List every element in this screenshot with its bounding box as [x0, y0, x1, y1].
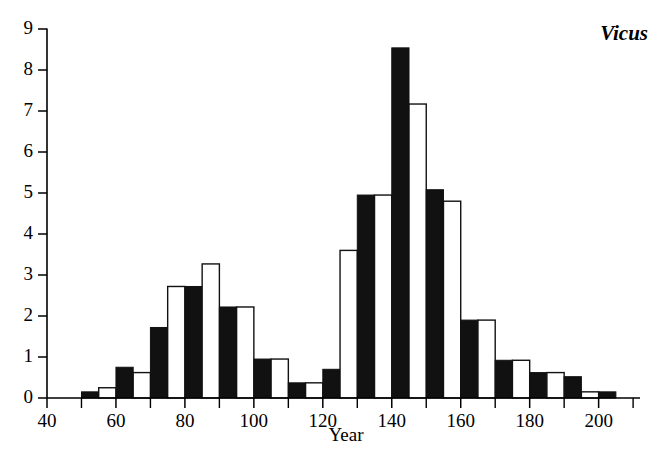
y-tick-label: 9 [24, 17, 34, 38]
histogram-bar [357, 195, 374, 398]
histogram-bar [392, 48, 409, 398]
bars-layer [81, 48, 615, 398]
x-tick-label: 80 [175, 410, 194, 431]
histogram-bar [271, 359, 288, 398]
y-tick-label: 0 [24, 386, 34, 407]
histogram-bar [495, 360, 512, 398]
y-tick-label: 6 [24, 140, 34, 161]
y-tick-label: 4 [24, 222, 34, 243]
histogram-bar [443, 201, 460, 398]
histogram-bar [599, 392, 616, 398]
y-tick-label: 2 [24, 304, 34, 325]
y-tick-label: 5 [24, 181, 34, 202]
histogram-bar [581, 392, 598, 398]
histogram-bar [116, 367, 133, 398]
histogram-bar [512, 360, 529, 398]
histogram-bar [461, 320, 478, 398]
histogram-bar [375, 195, 392, 398]
histogram-bar [409, 104, 426, 398]
x-tick-label: 200 [584, 410, 613, 431]
histogram-bar [237, 307, 254, 398]
histogram-bar [426, 190, 443, 398]
histogram-bar [185, 286, 202, 398]
histogram-bar [168, 286, 185, 398]
histogram-bar [81, 392, 98, 398]
x-tick-label: 60 [106, 410, 125, 431]
histogram-bar [340, 250, 357, 398]
x-tick-label: 180 [515, 410, 544, 431]
x-axis-title: Year [328, 424, 364, 445]
histogram-bar [478, 320, 495, 398]
histogram-bar [202, 264, 219, 398]
histogram-bar [306, 383, 323, 398]
x-tick-label: 40 [38, 410, 57, 431]
histogram-bar [530, 373, 547, 398]
y-tick-label: 8 [24, 58, 34, 79]
histogram-bar [323, 369, 340, 398]
histogram-bar [150, 327, 167, 398]
chart-container: 0123456789406080100120140160180200 Year … [0, 0, 665, 469]
x-tick-label: 100 [240, 410, 269, 431]
histogram-bar [99, 388, 116, 398]
x-tick-label: 140 [378, 410, 407, 431]
y-tick-label: 1 [24, 345, 34, 366]
histogram-bar [547, 373, 564, 398]
histogram-bar [133, 373, 150, 398]
histogram-bar [288, 383, 305, 398]
histogram-bar [564, 377, 581, 398]
y-tick-label: 7 [24, 99, 34, 120]
y-tick-label: 3 [24, 263, 34, 284]
chart-series-title: Vicus [600, 21, 648, 45]
histogram-bar [219, 307, 236, 398]
histogram-chart: 0123456789406080100120140160180200 Year … [0, 0, 665, 469]
ticks-layer [38, 29, 633, 408]
x-tick-label: 160 [446, 410, 475, 431]
histogram-bar [254, 359, 271, 398]
